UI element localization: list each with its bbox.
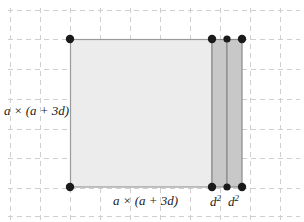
geometry-figure: a × (a + 3d) a × (a + 3d) d2 d2 <box>0 0 304 222</box>
vertex-dot-bottom-left <box>66 183 74 191</box>
d-squared-band-right <box>227 40 242 188</box>
vertex-dot-top-band2-right <box>238 35 246 43</box>
vertex-dot-bottom-band1-left <box>208 183 216 191</box>
d-squared-label-right: d2 <box>228 194 239 208</box>
d-squared-label-left: d2 <box>210 194 221 208</box>
vertex-dot-bottom-band2-right <box>238 183 246 191</box>
vertex-dot-top-band1-right <box>223 35 230 42</box>
bottom-area-label: a × (a + 3d) <box>113 194 178 207</box>
vertex-dot-bottom-band1-right <box>223 183 230 190</box>
d-squared-label-right-exponent: 2 <box>235 193 240 203</box>
left-area-label: a × (a + 3d) <box>4 104 69 117</box>
d-squared-label-left-exponent: 2 <box>217 193 222 203</box>
vertex-dot-top-band1-left <box>208 35 216 43</box>
a-times-a-plus-3d-square <box>71 40 213 188</box>
d-squared-band-left <box>212 40 227 188</box>
vertex-dot-top-left <box>66 35 74 43</box>
